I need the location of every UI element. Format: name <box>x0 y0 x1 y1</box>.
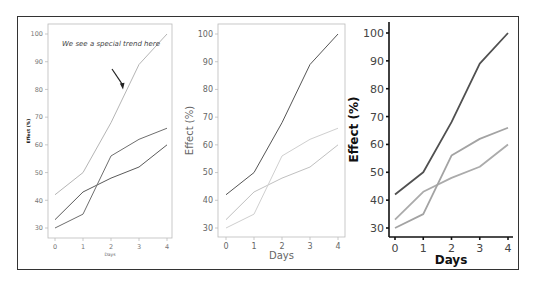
x-tick-label: 0 <box>392 242 399 255</box>
y-tick-label: 50 <box>203 168 213 177</box>
series-line-A <box>55 34 167 195</box>
arrow-head-icon <box>120 83 125 90</box>
y-tick-label: 90 <box>35 58 43 66</box>
y-tick-label: 90 <box>370 55 384 68</box>
chart-panel-right: 3040506070809010001234Effect (%)Days <box>347 22 513 267</box>
x-tick-label: 4 <box>335 242 340 251</box>
x-axis-label: Days <box>104 252 116 257</box>
x-tick-label: 1 <box>251 242 256 251</box>
x-tick-label: 3 <box>476 242 483 255</box>
y-tick-label: 40 <box>35 197 43 205</box>
x-tick-label: 2 <box>109 243 113 251</box>
x-tick-label: 3 <box>137 243 141 251</box>
x-tick-label: 4 <box>165 243 169 251</box>
x-tick-label: 0 <box>223 242 228 251</box>
y-tick-label: 70 <box>203 113 213 122</box>
y-tick-label: 90 <box>203 58 213 67</box>
axes-box <box>48 24 172 238</box>
x-tick-label: 1 <box>420 242 427 255</box>
series-line-A <box>226 34 338 195</box>
y-tick-label: 80 <box>370 83 384 96</box>
x-tick-label: 4 <box>505 242 512 255</box>
y-tick-label: 40 <box>370 194 384 207</box>
y-axis-label: Effect (%) <box>184 106 195 155</box>
y-tick-label: 30 <box>370 222 384 235</box>
x-axis-label: Days <box>269 250 294 261</box>
chart-panel-left: 3040506070809010001234Effect (%)DaysWe s… <box>26 24 172 257</box>
y-tick-label: 100 <box>363 27 384 40</box>
y-tick-label: 80 <box>203 85 213 94</box>
y-tick-label: 40 <box>203 196 213 205</box>
y-axis-label: Effect (%) <box>347 96 361 162</box>
y-tick-label: 30 <box>35 224 43 232</box>
y-tick-label: 60 <box>370 138 384 151</box>
y-tick-label: 60 <box>35 141 43 149</box>
y-tick-label: 100 <box>198 30 213 39</box>
x-tick-label: 3 <box>307 242 312 251</box>
chart-panel-middle: 3040506070809010001234Effect (%)Days <box>184 24 345 261</box>
annotation-text: We see a special trend here <box>62 40 160 48</box>
series-line-A <box>395 33 508 195</box>
x-tick-label: 0 <box>53 243 57 251</box>
x-axis-label: Days <box>435 253 468 267</box>
y-tick-label: 60 <box>203 141 213 150</box>
x-tick-label: 1 <box>81 243 85 251</box>
y-axis-label: Effect (%) <box>26 119 31 144</box>
y-tick-label: 100 <box>31 30 43 38</box>
y-tick-label: 50 <box>35 169 43 177</box>
y-tick-label: 70 <box>370 111 384 124</box>
y-tick-label: 80 <box>35 86 43 94</box>
chart-canvas: 3040506070809010001234Effect (%)DaysWe s… <box>0 0 537 286</box>
annotation-arrow <box>112 69 123 85</box>
y-tick-label: 30 <box>203 224 213 233</box>
axes-box <box>218 24 345 237</box>
y-tick-label: 50 <box>370 166 384 179</box>
y-tick-label: 70 <box>35 113 43 121</box>
